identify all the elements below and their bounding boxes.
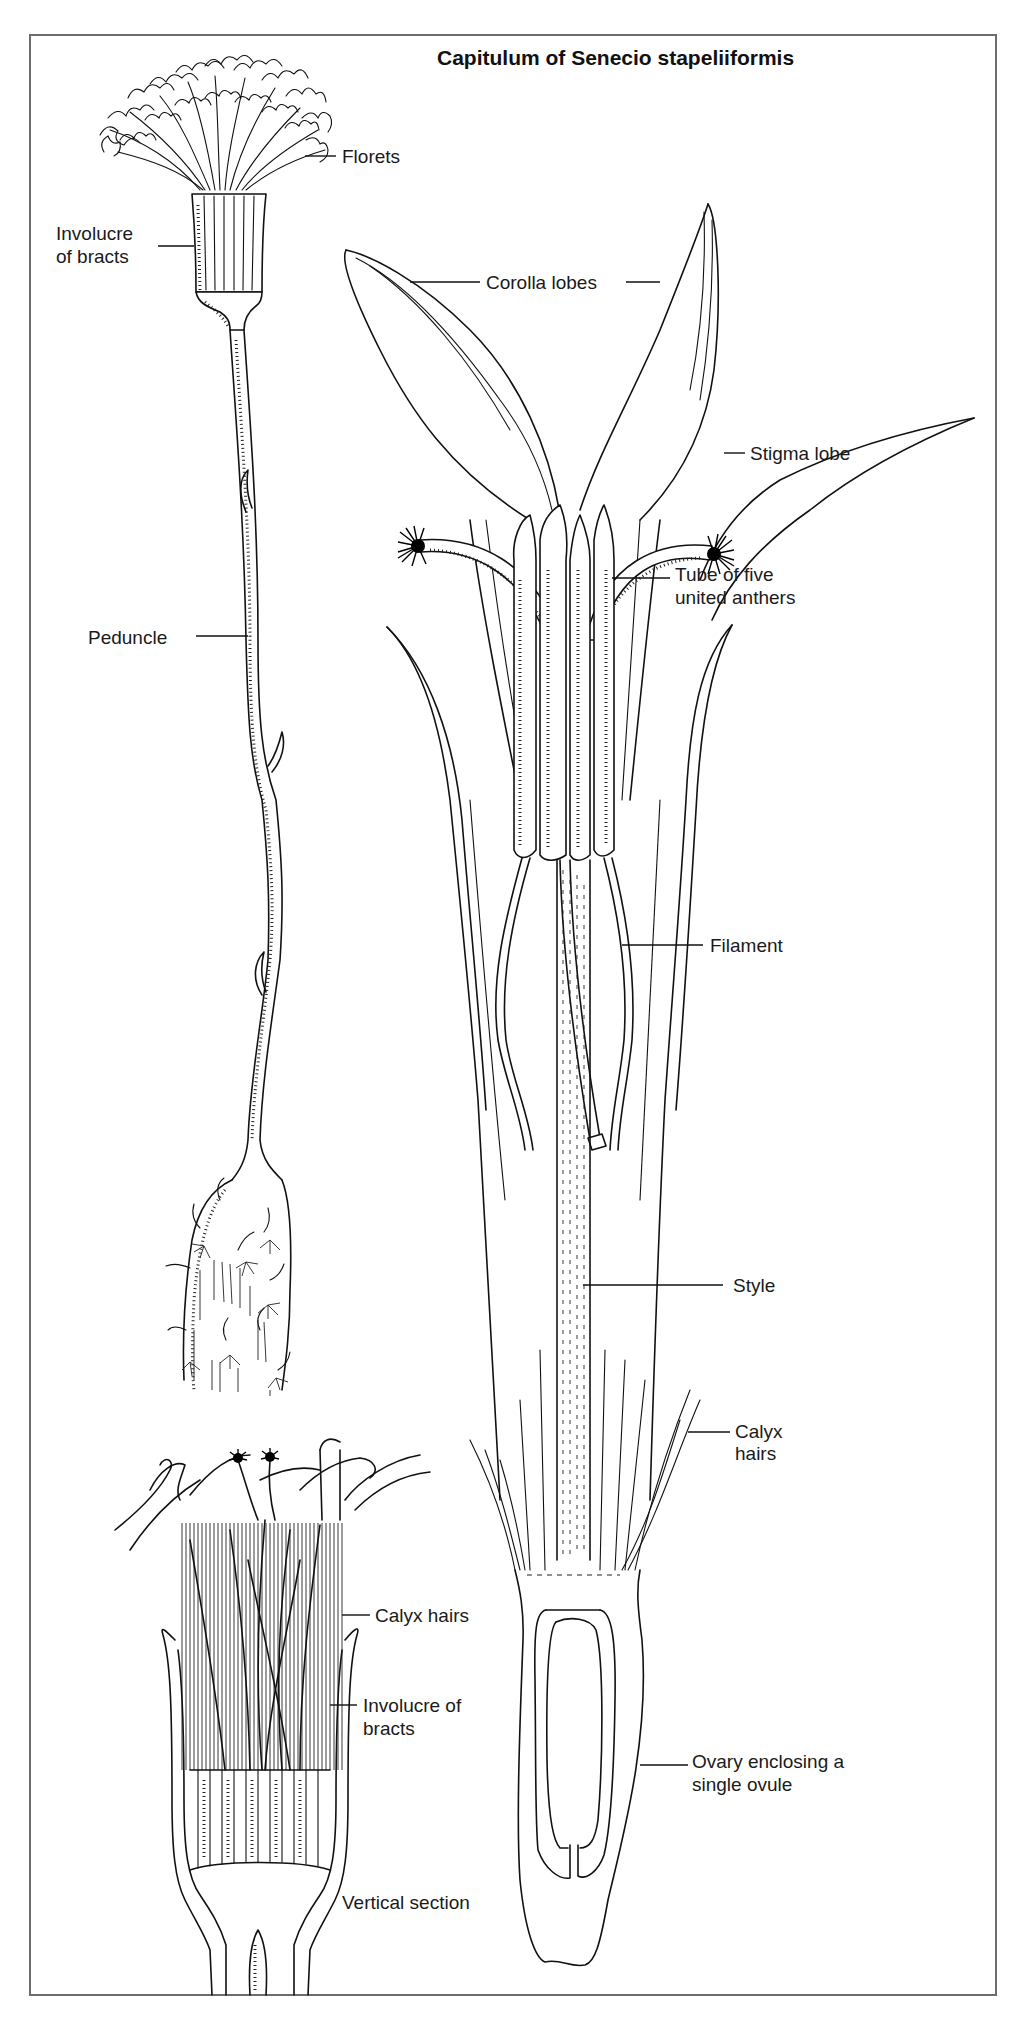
label-filament: Filament: [710, 934, 783, 957]
capitulum-head: [100, 55, 332, 330]
label-section-calyx-hairs: Calyx hairs: [375, 1604, 469, 1627]
floret-filaments: [496, 858, 633, 1150]
label-calyx-hairs-line1: Calyx: [735, 1420, 783, 1443]
section-calyx-hairs: [182, 1520, 342, 1770]
floret-ovary: [515, 1570, 643, 1966]
label-ovary-line1: Ovary enclosing a: [692, 1750, 844, 1773]
label-anther-tube-line1: Tube of five: [675, 563, 774, 586]
label-involucre-line2: of bracts: [56, 245, 129, 268]
floret-anther-tube: [514, 505, 614, 860]
floret-style: [557, 860, 590, 1560]
label-section-involucre-line1: Involucre of: [363, 1694, 461, 1717]
label-calyx-hairs-line2: hairs: [735, 1442, 776, 1465]
label-style: Style: [733, 1274, 775, 1297]
label-florets: Florets: [342, 145, 400, 168]
stem-base: [166, 1178, 291, 1396]
section-involucre: [162, 1629, 358, 1995]
label-vertical-section: Vertical section: [342, 1891, 470, 1914]
illustration: [0, 0, 1023, 2041]
label-peduncle: Peduncle: [88, 626, 167, 649]
label-corolla-lobes: Corolla lobes: [486, 271, 597, 294]
label-anther-tube-line2: united anthers: [675, 586, 795, 609]
label-stigma-lobe: Stigma lobe: [750, 442, 850, 465]
floret-calyx-hairs: [470, 1350, 700, 1570]
botanical-figure: Capitulum of Senecio stapeliiformis: [0, 0, 1023, 2041]
peduncle-stem: [230, 330, 284, 1180]
label-section-involucre-line2: bracts: [363, 1717, 415, 1740]
label-ovary-line2: single ovule: [692, 1773, 792, 1796]
floret-corolla-lobes: [345, 204, 974, 800]
label-involucre-line1: Involucre: [56, 222, 133, 245]
section-florets: [115, 1439, 430, 1550]
